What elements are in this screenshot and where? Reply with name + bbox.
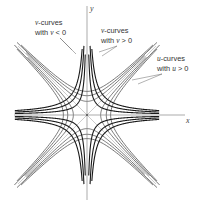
leader-line [132, 74, 162, 80]
annotation-prefix: with [156, 64, 172, 73]
annotation-relation: < 0 [53, 28, 66, 37]
svg-text:with v > 0: with v > 0 [100, 36, 132, 45]
svg-text:v-curves: v-curves [35, 18, 63, 27]
leader-line [99, 46, 117, 52]
x-axis-label: x [185, 116, 190, 125]
annotation-prefix: with [100, 36, 116, 45]
annotation-text: -curves [104, 26, 129, 35]
leader-line [102, 46, 117, 56]
y-axis-label: y [89, 4, 94, 13]
svg-text:u-curves: u-curves [157, 54, 185, 63]
annotation-v-positive: v-curves with v > 0 [99, 26, 132, 56]
annotation-v-negative: v-curves with v < 0 [34, 18, 76, 54]
annotation-relation: > 0 [176, 64, 189, 73]
hyperbola-coordinate-diagram: y x v-curves with v < 0 v-curves with v … [0, 0, 207, 208]
svg-text:v-curves: v-curves [101, 26, 129, 35]
annotation-text: -curves [38, 18, 63, 27]
origin-point [86, 114, 88, 116]
leader-line [138, 74, 162, 84]
svg-text:with v < 0: with v < 0 [34, 28, 66, 37]
leader-line [60, 38, 76, 54]
annotation-relation: > 0 [119, 36, 132, 45]
annotation-prefix: with [34, 28, 50, 37]
annotation-text: -curves [161, 54, 186, 63]
svg-text:with u > 0: with u > 0 [156, 64, 188, 73]
